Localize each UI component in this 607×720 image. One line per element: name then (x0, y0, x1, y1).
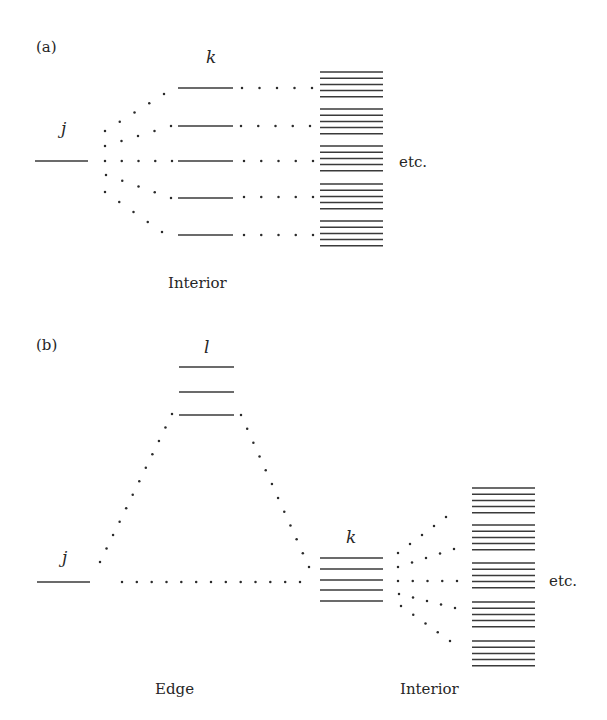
coupling-dot (171, 413, 174, 416)
coupling-dot (312, 160, 315, 163)
interior-level-stack (472, 488, 535, 666)
coupling-dot (112, 534, 115, 537)
coupling-j-l (99, 413, 174, 564)
coupling-dot (136, 581, 139, 584)
coupling-dot (145, 467, 148, 470)
coupling-dot (118, 520, 121, 523)
coupling-dot (137, 135, 140, 138)
coupling-dot (240, 125, 243, 128)
coupling-j-k2 (104, 125, 173, 148)
coupling-dot (150, 581, 153, 584)
coupling-dot (164, 426, 167, 429)
coupling-dot (125, 507, 128, 510)
coupling-dot (137, 160, 140, 163)
level-label-k: k (346, 527, 356, 547)
coupling-dot (161, 231, 164, 234)
coupling-k2-interior (240, 125, 312, 128)
coupling-j-k4 (105, 174, 173, 200)
coupling-j-k5 (104, 191, 164, 234)
coupling-dot (121, 160, 124, 163)
coupling-dot (118, 201, 121, 204)
coupling-dot (397, 566, 400, 569)
coupling-dot (257, 125, 260, 128)
coupling-dot (440, 603, 443, 606)
coupling-dot (137, 185, 140, 188)
etc-label: etc. (399, 153, 427, 171)
coupling-dot (421, 534, 424, 537)
coupling-dot (243, 160, 246, 163)
coupling-dot (409, 543, 412, 546)
coupling-dot (295, 234, 298, 237)
coupling-k-interior-5 (400, 605, 452, 643)
coupling-dot (439, 552, 442, 555)
coupling-dot (441, 580, 444, 583)
coupling-dot (241, 87, 244, 90)
coupling-k3-interior (243, 160, 315, 163)
region-label-edge: Edge (155, 680, 194, 698)
coupling-l-k (240, 414, 311, 569)
coupling-dot (105, 547, 108, 550)
level-label-j: j (57, 118, 67, 138)
coupling-k-interior-1 (397, 516, 448, 555)
coupling-dot (120, 140, 123, 143)
coupling-dot (121, 180, 124, 183)
coupling-dot (158, 440, 161, 443)
coupling-dot (426, 580, 429, 583)
coupling-dot (121, 581, 124, 584)
coupling-dot (105, 174, 108, 177)
coupling-dot (171, 160, 174, 163)
coupling-dot (400, 605, 403, 608)
coupling-dot (412, 596, 415, 599)
coupling-dot (271, 483, 274, 486)
coupling-dot (119, 121, 122, 124)
level-label-l: l (204, 337, 209, 357)
coupling-dot (225, 581, 228, 584)
coupling-k-interior-2 (397, 548, 456, 569)
coupling-dot (449, 640, 452, 643)
coupling-dot (99, 561, 102, 564)
coupling-k1-interior (241, 87, 314, 90)
coupling-dot (254, 581, 257, 584)
coupling-dot (456, 580, 459, 583)
coupling-dot (260, 234, 263, 237)
coupling-dot (104, 160, 107, 163)
coupling-dot (276, 87, 279, 90)
coupling-dot (437, 631, 440, 634)
coupling-dot (397, 552, 400, 555)
coupling-dot (433, 525, 436, 528)
coupling-dot (133, 111, 136, 114)
coupling-dot (269, 581, 272, 584)
coupling-dot (240, 414, 243, 417)
coupling-j-k (121, 581, 302, 584)
panel-label-b: (b) (36, 336, 57, 354)
coupling-dot (147, 221, 150, 224)
coupling-dot (308, 566, 311, 569)
coupling-dot (445, 516, 448, 519)
coupling-dot (260, 160, 263, 163)
region-label-interior: Interior (168, 274, 227, 292)
coupling-dot (165, 581, 168, 584)
panel-a: (a) jketc.Interior (35, 38, 427, 292)
coupling-dot (258, 87, 261, 90)
coupling-dot (312, 196, 315, 199)
coupling-dot (283, 510, 286, 513)
etc-label: etc. (549, 572, 577, 590)
energy-level-diagram: (a) jketc.Interior (b) ljketc.EdgeInteri… (0, 0, 607, 720)
coupling-dot (104, 145, 107, 148)
coupling-dot (454, 607, 457, 610)
coupling-dot (425, 557, 428, 560)
coupling-dot (104, 130, 107, 133)
coupling-dot (131, 493, 134, 496)
coupling-j-k1 (104, 93, 166, 133)
coupling-dot (302, 552, 305, 555)
coupling-dot (154, 191, 157, 194)
coupling-dot (153, 130, 156, 133)
coupling-dot (151, 453, 154, 456)
coupling-dot (260, 196, 263, 199)
panel-b: (b) ljketc.EdgeInterior (36, 336, 577, 698)
coupling-dot (309, 125, 312, 128)
coupling-dot (295, 160, 298, 163)
coupling-dot (138, 480, 141, 483)
coupling-k5-interior (243, 234, 315, 237)
coupling-k-interior-4 (398, 593, 457, 610)
